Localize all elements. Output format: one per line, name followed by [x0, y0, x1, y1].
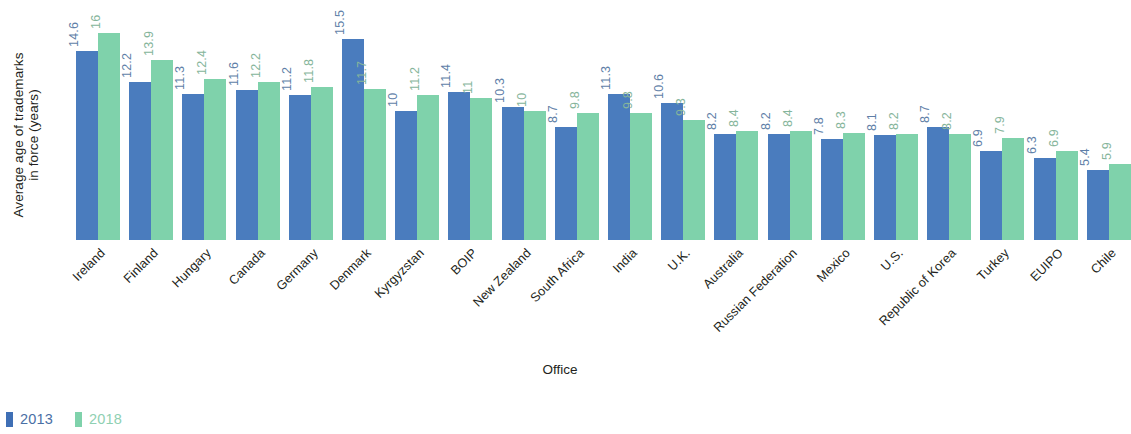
bar-rect[interactable] — [258, 82, 280, 240]
chart-legend: 20132018 — [6, 411, 122, 427]
bar-rect[interactable] — [577, 113, 599, 240]
bar-rect[interactable] — [896, 134, 918, 240]
bar-rect[interactable] — [683, 120, 705, 240]
bar-rect[interactable] — [395, 111, 417, 241]
legend-label: 2013 — [20, 411, 53, 427]
bar-2018[interactable]: 12.2 — [258, 82, 280, 240]
bar-rect[interactable] — [470, 98, 492, 240]
bar-2018[interactable]: 13.9 — [151, 60, 173, 240]
bar-2013[interactable]: 11.6 — [236, 90, 258, 240]
x-tick-label: Australia — [701, 246, 746, 291]
bar-2018[interactable]: 12.4 — [204, 79, 226, 240]
bar-rect[interactable] — [1056, 151, 1078, 240]
bar-rect[interactable] — [204, 79, 226, 240]
bar-value-label: 11.4 — [439, 64, 453, 88]
bar-rect[interactable] — [874, 135, 896, 240]
bar-2013[interactable]: 7.8 — [821, 139, 843, 240]
bar-2013[interactable]: 10 — [395, 111, 417, 241]
bar-2018[interactable]: 8.4 — [790, 131, 812, 240]
bar-rect[interactable] — [311, 87, 333, 240]
bar-rect[interactable] — [289, 95, 311, 240]
bar-rect[interactable] — [182, 94, 204, 240]
bar-2013[interactable]: 11.2 — [289, 95, 311, 240]
bar-rect[interactable] — [76, 51, 98, 240]
bar-2013[interactable]: 11.3 — [608, 94, 630, 240]
bar-rect[interactable] — [980, 151, 1002, 240]
bar-rect[interactable] — [524, 111, 546, 241]
bar-2018[interactable]: 11.7 — [364, 89, 386, 241]
bar-rect[interactable] — [1109, 164, 1131, 240]
bar-rect[interactable] — [790, 131, 812, 240]
bar-2018[interactable]: 16 — [98, 33, 120, 240]
bar-rect[interactable] — [661, 103, 683, 240]
bar-2013[interactable]: 8.7 — [927, 127, 949, 240]
bar-value-label: 11.2 — [408, 67, 422, 91]
bar-2013[interactable]: 10.6 — [661, 103, 683, 240]
bar-rect[interactable] — [608, 94, 630, 240]
bar-group: 11.411 — [448, 0, 492, 241]
bar-2018[interactable]: 7.9 — [1002, 138, 1024, 240]
bar-2018[interactable]: 10 — [524, 111, 546, 241]
bar-2013[interactable]: 6.9 — [980, 151, 1002, 240]
bar-2018[interactable]: 8.3 — [843, 133, 865, 240]
bar-rect[interactable] — [714, 134, 736, 240]
bar-value-label: 13.9 — [142, 31, 156, 56]
bar-rect[interactable] — [927, 127, 949, 240]
bar-rect[interactable] — [1034, 158, 1056, 240]
legend-swatch-icon — [6, 412, 13, 427]
bar-2013[interactable]: 12.2 — [129, 82, 151, 240]
bar-2018[interactable]: 9.3 — [683, 120, 705, 240]
bar-2013[interactable]: 11.3 — [182, 94, 204, 240]
bar-2013[interactable]: 8.2 — [768, 134, 790, 240]
bar-value-label: 8.3 — [834, 111, 848, 129]
bar-rect[interactable] — [502, 107, 524, 240]
bar-2018[interactable]: 8.2 — [949, 134, 971, 240]
bar-rect[interactable] — [555, 127, 577, 240]
bar-2013[interactable]: 10.3 — [502, 107, 524, 240]
bar-group: 11.39.8 — [608, 0, 652, 241]
legend-item-2013[interactable]: 2013 — [6, 411, 53, 427]
bar-rect[interactable] — [821, 139, 843, 240]
bar-2013[interactable]: 5.4 — [1087, 170, 1109, 240]
bar-value-label: 8.2 — [940, 112, 954, 130]
bar-rect[interactable] — [448, 92, 470, 240]
bar-2013[interactable]: 6.3 — [1034, 158, 1056, 240]
bar-2013[interactable]: 14.6 — [76, 51, 98, 240]
legend-item-2018[interactable]: 2018 — [75, 411, 122, 427]
bar-value-label: 11.6 — [227, 62, 241, 86]
bar-rect[interactable] — [843, 133, 865, 240]
bar-2018[interactable]: 11.8 — [311, 87, 333, 240]
bar-2013[interactable]: 8.2 — [714, 134, 736, 240]
bar-value-label: 5.4 — [1078, 148, 1092, 166]
bar-2013[interactable]: 8.7 — [555, 127, 577, 240]
bar-rect[interactable] — [364, 89, 386, 241]
bar-group: 8.18.2 — [874, 0, 918, 241]
bar-rect[interactable] — [98, 33, 120, 240]
bar-2018[interactable]: 9.8 — [630, 113, 652, 240]
bar-rect[interactable] — [1087, 170, 1109, 240]
bar-value-label: 8.4 — [781, 109, 795, 127]
bar-value-label: 9.8 — [621, 91, 635, 109]
bar-rect[interactable] — [151, 60, 173, 240]
bar-2018[interactable]: 5.9 — [1109, 164, 1131, 240]
bar-2018[interactable]: 11 — [470, 98, 492, 240]
bar-value-label: 5.9 — [1100, 142, 1114, 160]
bar-2018[interactable]: 8.2 — [896, 134, 918, 240]
bar-rect[interactable] — [129, 82, 151, 240]
bar-rect[interactable] — [1002, 138, 1024, 240]
bar-rect[interactable] — [736, 131, 758, 240]
bar-rect[interactable] — [630, 113, 652, 240]
bar-rect[interactable] — [417, 95, 439, 240]
bar-group: 6.36.9 — [1034, 0, 1078, 241]
bar-rect[interactable] — [236, 90, 258, 240]
bar-2018[interactable]: 6.9 — [1056, 151, 1078, 240]
bar-value-label: 11.3 — [173, 65, 187, 89]
bar-2018[interactable]: 11.2 — [417, 95, 439, 240]
bar-rect[interactable] — [949, 134, 971, 240]
bar-2018[interactable]: 8.4 — [736, 131, 758, 240]
bar-rect[interactable] — [768, 134, 790, 240]
bar-2013[interactable]: 8.1 — [874, 135, 896, 240]
bar-2018[interactable]: 9.8 — [577, 113, 599, 240]
bar-2013[interactable]: 11.4 — [448, 92, 470, 240]
bar-group: 1011.2 — [395, 0, 439, 241]
